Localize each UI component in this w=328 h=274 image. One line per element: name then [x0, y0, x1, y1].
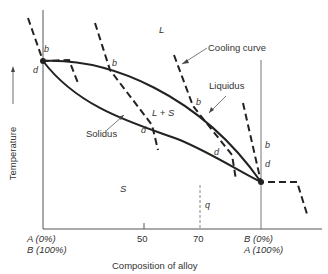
point-b-alloy1: b: [112, 58, 117, 68]
cooling-arrowhead: [182, 59, 189, 64]
point-b-alloy2: b: [196, 97, 201, 107]
temperature-arrowhead: [11, 66, 15, 72]
point-b-right: b: [265, 140, 270, 150]
point-d-alloy2: d: [214, 147, 219, 157]
y-axis-label: Temperature: [7, 127, 18, 180]
cooling-curve-alloy-2: [174, 55, 236, 180]
point-q: q: [205, 200, 210, 210]
region-two-phase-label: L + S: [152, 107, 174, 118]
x-axis-label: Composition of alloy: [112, 260, 198, 271]
liquidus-label: Liquidus: [209, 80, 244, 91]
tick-label-50: 50: [137, 233, 148, 244]
point-d-left: d: [33, 65, 38, 75]
x-left-label-1: A (0%): [27, 233, 56, 244]
tick-label-70: 70: [193, 233, 204, 244]
x-right-label-1: B (0%): [244, 233, 273, 244]
point-d-alloy1: d: [141, 125, 146, 135]
x-left-label-2: B (100%): [27, 244, 67, 255]
x-right-label-2: A (100%): [244, 244, 283, 255]
solidus-label: Solidus: [86, 128, 117, 139]
cooling-curve-pure-B: [243, 103, 307, 214]
region-solid-label: S: [120, 183, 126, 194]
cooling-curve-label: Cooling curve: [208, 42, 266, 53]
region-liquid-label: L: [159, 24, 164, 35]
point-b-left: b: [44, 44, 49, 54]
point-d-right: d: [265, 159, 270, 169]
liquidus-arrowhead: [209, 107, 214, 113]
